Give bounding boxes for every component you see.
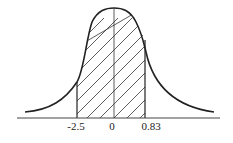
- label-mean: 0: [109, 120, 115, 132]
- normal-curve-diagram: [0, 0, 233, 143]
- bell-curve: [25, 8, 214, 112]
- label-left-bound: -2.5: [67, 120, 84, 132]
- hatch-lines: [4, 10, 233, 118]
- label-right-bound: 0.83: [141, 120, 160, 132]
